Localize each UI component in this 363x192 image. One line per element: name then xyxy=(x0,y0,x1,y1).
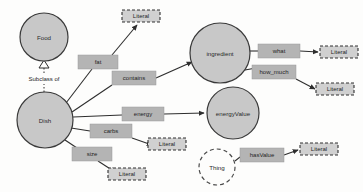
edge-line-dish-carbs xyxy=(71,128,90,131)
literal-node-how-much-label: Literal xyxy=(327,86,343,92)
edge-label-size-text: size xyxy=(87,151,98,157)
node-food-label: Food xyxy=(37,34,52,41)
node-dish-label: Dish xyxy=(39,117,52,124)
edge-label-carbs[interactable]: carbs xyxy=(90,124,132,138)
edge-label-has-value[interactable]: hasValue xyxy=(240,148,284,162)
literal-node-size-label: Literal xyxy=(119,171,135,177)
edge-line-thing-hasvalue xyxy=(235,157,240,161)
node-energyvalue-label: energyValue xyxy=(216,110,251,117)
ontology-graph-svg: Food Dish ingredient energyValue Thing S… xyxy=(0,0,363,192)
ontology-diagram-canvas: Food Dish ingredient energyValue Thing S… xyxy=(0,0,363,192)
literal-node-fat-label: Literal xyxy=(133,13,149,19)
node-food[interactable]: Food xyxy=(20,13,68,61)
edge-label-has-value-text: hasValue xyxy=(250,152,275,158)
edge-label-size[interactable]: size xyxy=(72,147,112,161)
subclass-of-label: Subclass of xyxy=(28,76,59,82)
edge-label-carbs-text: carbs xyxy=(104,128,119,134)
edge-label-fat[interactable]: fat xyxy=(78,55,118,69)
node-energyvalue[interactable]: energyValue xyxy=(207,87,259,139)
edge-label-fat-text: fat xyxy=(95,59,102,65)
edge-line-dish-fat xyxy=(66,69,92,103)
edge-label-energy-text: energy xyxy=(134,111,152,117)
edge-line-energy-energyvalue xyxy=(164,113,204,114)
edge-line-howmuch-literal xyxy=(296,79,315,89)
literal-node-what[interactable]: Literal xyxy=(320,46,358,58)
literal-node-how-much[interactable]: Literal xyxy=(316,83,354,95)
edge-line-dish-contains xyxy=(72,85,112,112)
node-thing[interactable]: Thing xyxy=(199,149,235,185)
node-ingredient[interactable]: ingredient xyxy=(190,23,250,83)
literal-node-fat[interactable]: Literal xyxy=(122,10,160,22)
edge-label-contains[interactable]: contains xyxy=(112,71,156,85)
literal-node-size[interactable]: Literal xyxy=(108,168,146,180)
node-ingredient-label: ingredient xyxy=(206,50,233,57)
node-dish[interactable]: Dish xyxy=(17,92,73,148)
edge-label-what[interactable]: what xyxy=(258,44,300,58)
literal-node-what-label: Literal xyxy=(331,49,347,55)
literal-node-has-value-label: Literal xyxy=(311,146,327,152)
edge-label-how-much[interactable]: how_much xyxy=(252,65,296,79)
literal-node-carbs[interactable]: Literal xyxy=(148,138,186,150)
edge-label-how-much-text: how_much xyxy=(259,69,288,75)
literal-node-has-value[interactable]: Literal xyxy=(300,143,338,155)
edge-line-contains-ingredient xyxy=(156,62,192,78)
edge-label-energy[interactable]: energy xyxy=(122,107,164,121)
edge-line-hasvalue-literal xyxy=(284,150,298,155)
literal-node-carbs-label: Literal xyxy=(159,141,175,147)
edge-line-dish-energy xyxy=(73,115,122,117)
edge-line-what-literal xyxy=(300,51,318,52)
node-thing-label: Thing xyxy=(209,164,225,171)
edge-label-what-text: what xyxy=(272,48,286,54)
edge-label-contains-text: contains xyxy=(123,75,145,81)
edge-line-fat-literal xyxy=(112,25,137,55)
